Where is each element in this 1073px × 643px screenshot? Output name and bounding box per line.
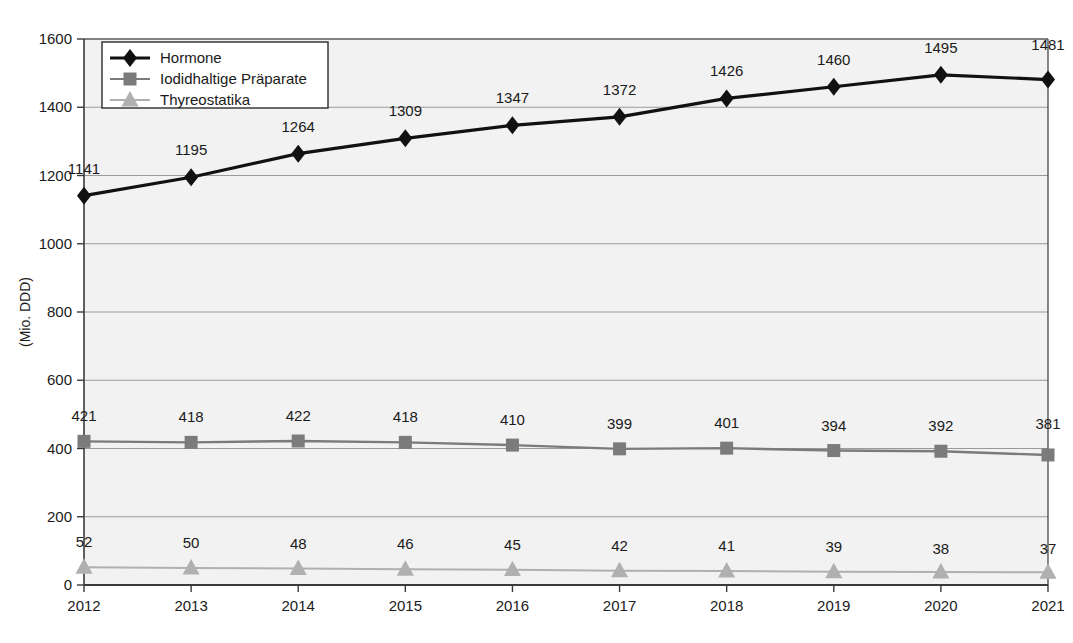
data-point-label: 401 — [714, 414, 739, 431]
data-point-label: 399 — [607, 415, 632, 432]
line-chart: 02004006008001000120014001600 2012201320… — [0, 0, 1073, 643]
data-point-label: 1141 — [68, 160, 100, 177]
data-point-label: 39 — [825, 538, 842, 555]
data-point-label: 1372 — [603, 81, 636, 98]
data-point-label: 422 — [286, 407, 311, 424]
data-point-label: 1426 — [710, 62, 743, 79]
chart-legend: HormoneIodidhaltige PräparateThyreostati… — [102, 42, 328, 108]
data-point-label: 418 — [393, 408, 418, 425]
y-tick-label: 400 — [47, 440, 72, 457]
data-point-label: 1264 — [282, 118, 315, 135]
y-tick-label: 200 — [47, 508, 72, 525]
data-point-label: 46 — [397, 535, 414, 552]
square-marker-icon — [185, 436, 198, 449]
square-marker-icon — [613, 442, 626, 455]
data-point-label: 41 — [718, 537, 735, 554]
data-point-label: 410 — [500, 411, 525, 428]
legend-item-label[interactable]: Thyreostatika — [160, 91, 251, 108]
data-point-label: 45 — [504, 536, 521, 553]
x-tick-label: 2021 — [1031, 597, 1064, 614]
data-point-label: 42 — [611, 537, 628, 554]
y-tick-label: 1400 — [39, 98, 72, 115]
y-tick-label: 800 — [47, 303, 72, 320]
data-point-label: 392 — [928, 417, 953, 434]
legend-item-label[interactable]: Iodidhaltige Präparate — [160, 70, 307, 87]
y-tick-label: 600 — [47, 371, 72, 388]
square-marker-icon — [720, 442, 733, 455]
x-tick-label: 2020 — [924, 597, 957, 614]
data-point-label: 418 — [179, 408, 204, 425]
data-point-label: 1495 — [924, 39, 957, 56]
square-marker-icon — [827, 444, 840, 457]
data-point-label: 52 — [76, 533, 93, 550]
x-tick-label: 2013 — [174, 597, 207, 614]
data-point-label: 421 — [71, 407, 96, 424]
x-axis: 2012201320142015201620172018201920202021 — [67, 585, 1064, 614]
data-point-label: 1460 — [817, 51, 850, 68]
square-marker-icon — [78, 435, 91, 448]
x-tick-label: 2015 — [389, 597, 422, 614]
y-axis-title-text: (Mio. DDD) — [17, 277, 33, 347]
y-tick-label: 1000 — [39, 235, 72, 252]
legend-item-label[interactable]: Hormone — [160, 49, 222, 66]
square-marker-icon — [292, 434, 305, 447]
data-point-label: 48 — [290, 535, 307, 552]
data-point-label: 394 — [821, 417, 846, 434]
data-point-label: 1195 — [175, 141, 207, 158]
chart-container: 02004006008001000120014001600 2012201320… — [0, 0, 1073, 643]
square-marker-icon — [1042, 448, 1055, 461]
x-tick-label: 2012 — [67, 597, 100, 614]
square-marker-icon — [506, 439, 519, 452]
y-tick-label: 0 — [64, 576, 72, 593]
square-marker-icon — [399, 436, 412, 449]
data-point-label: 381 — [1035, 415, 1060, 432]
square-marker-icon — [934, 445, 947, 458]
data-point-label: 1481 — [1031, 36, 1064, 53]
data-point-label: 38 — [933, 540, 950, 557]
x-tick-label: 2019 — [817, 597, 850, 614]
x-tick-label: 2014 — [282, 597, 315, 614]
x-tick-label: 2016 — [496, 597, 529, 614]
data-point-label: 37 — [1040, 540, 1057, 557]
data-point-label: 1309 — [389, 102, 422, 119]
x-tick-label: 2018 — [710, 597, 743, 614]
y-tick-label: 1600 — [39, 30, 72, 47]
data-point-label: 1347 — [496, 89, 529, 106]
square-marker-icon — [124, 73, 137, 86]
y-axis-title: (Mio. DDD) — [17, 277, 33, 347]
data-point-label: 50 — [183, 534, 200, 551]
x-tick-label: 2017 — [603, 597, 636, 614]
